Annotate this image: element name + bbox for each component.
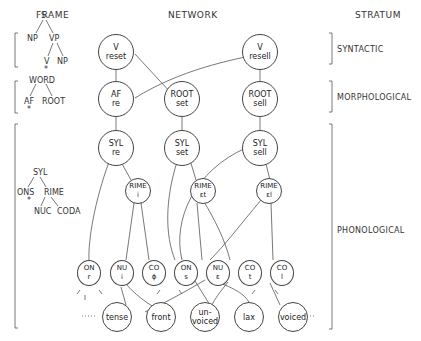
node-nu-e: NUɛ (206, 260, 230, 286)
node-on-r: ONr (77, 260, 101, 286)
header-stratum: STRATUM (355, 10, 401, 20)
node-v-reset: Vreset (98, 34, 134, 70)
frame-root: ROOT (42, 97, 65, 106)
node-unvoiced: un-voiced (190, 302, 220, 332)
node-rime-el: RIMEɛl (256, 178, 282, 204)
frame-star-phon: * (27, 196, 31, 205)
node-co-l: COl (270, 260, 294, 286)
node-co-t: COt (238, 260, 262, 286)
frame-syl: SYL (33, 168, 47, 177)
stratum-phonological: PHONOLOGICAL (337, 226, 405, 235)
frame-coda: CODA (57, 207, 80, 216)
node-rime-et: RIMEɛt (190, 178, 216, 204)
node-rime-i: RIMEi (125, 178, 151, 204)
frame-ons: ONS (17, 188, 34, 197)
frame-star-morph: * (27, 105, 31, 114)
node-root-sell: ROOTsell (242, 81, 278, 117)
frame-np: NP (27, 34, 38, 43)
frame-s: S (41, 11, 46, 20)
node-af-re: AFre (98, 81, 134, 117)
node-co-null: COϕ (142, 260, 166, 286)
node-v-resell: Vresell (242, 34, 278, 70)
frame-star-syntactic: * (44, 65, 48, 74)
node-root-set: ROOTset (164, 81, 200, 117)
stratum-morphological: MORPHOLOGICAL (337, 93, 411, 102)
node-tense: tense (102, 302, 132, 332)
node-front: front (146, 302, 176, 332)
header-network: NETWORK (168, 10, 218, 20)
frame-vp: VP (49, 34, 59, 43)
frame-rime: RIME (44, 188, 64, 197)
frame-nuc: NUC (34, 207, 51, 216)
node-syl-re: SYLre (98, 130, 134, 166)
stratum-syntactic: SYNTACTIC (337, 45, 384, 54)
node-syl-set: SYLset (164, 130, 200, 166)
frame-word: WORD (29, 76, 55, 85)
node-nu-i: NUi (110, 260, 134, 286)
node-voiced: voiced (278, 302, 308, 332)
frame-np2: NP (57, 57, 68, 66)
node-lax: lax (234, 302, 264, 332)
node-on-s: ONs (174, 260, 198, 286)
node-syl-sell: SYLsell (242, 130, 278, 166)
